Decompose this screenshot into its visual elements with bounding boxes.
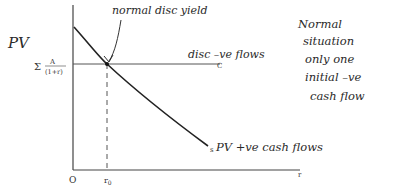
x-axis-label: r (298, 171, 302, 179)
svg-text:(1+r): (1+r) (45, 68, 63, 76)
r0-label: r0 (104, 176, 112, 186)
disc-negative-flows-label: disc –ve flows (188, 48, 265, 61)
svg-text:only one: only one (305, 52, 354, 66)
pv-diagram: PV r O r0 Σ A (1+r) normal disc yield di… (0, 0, 408, 191)
intersection-point (105, 62, 109, 66)
y-axis-label: PV (7, 34, 31, 52)
side-note: Normal situation only one initial –ve ca… (297, 17, 365, 103)
pv-positive-cash-flows-curve (74, 27, 208, 146)
curve-end-label-s: s (210, 146, 214, 154)
svg-text:Normal: Normal (297, 17, 342, 31)
svg-text:A: A (49, 58, 56, 66)
origin-label: O (69, 175, 76, 185)
svg-text:initial –ve: initial –ve (305, 70, 361, 84)
pv-positive-cash-flows-label: PV +ve cash flows (215, 140, 323, 154)
svg-text:Σ: Σ (34, 61, 41, 72)
svg-text:cash flow: cash flow (310, 89, 365, 103)
annotation-arrow (109, 20, 121, 61)
pv-level-label: Σ A (1+r) (34, 58, 66, 76)
normal-disc-yield-annotation: normal disc yield (112, 4, 208, 17)
line-end-label-c: C (217, 62, 222, 70)
svg-text:situation: situation (303, 34, 354, 48)
